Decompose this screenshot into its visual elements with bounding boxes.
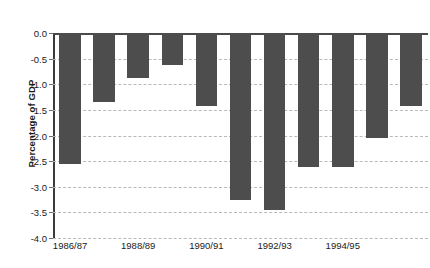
y-tick-label: -1.0 <box>31 79 47 90</box>
bar <box>366 33 387 138</box>
bar <box>230 33 251 200</box>
bar <box>59 33 80 164</box>
gridline <box>53 238 428 239</box>
plot-area: 0.0-0.5-1.0-1.5-2.0-2.5-3.0-3.5-4.0 <box>53 33 428 238</box>
bar <box>332 33 353 167</box>
x-tick-label: 1986/87 <box>53 240 87 251</box>
y-tick-label: -1.5 <box>31 104 47 115</box>
y-tick-mark <box>49 238 53 239</box>
bar <box>264 33 285 210</box>
bar-series <box>53 33 428 238</box>
y-tick-label: -2.0 <box>31 130 47 141</box>
bar <box>162 33 183 65</box>
y-tick-label: -2.5 <box>31 156 47 167</box>
x-tick-label: 1988/89 <box>121 240 155 251</box>
y-tick-label: -0.5 <box>31 53 47 64</box>
y-tick-label: -3.0 <box>31 181 47 192</box>
x-axis-labels: 1986/871988/891990/911992/931994/95 <box>53 240 428 262</box>
y-tick-label: -4.0 <box>31 233 47 244</box>
bar <box>196 33 217 106</box>
bar <box>127 33 148 78</box>
x-tick-label: 1994/95 <box>326 240 360 251</box>
y-tick-label: -3.5 <box>31 207 47 218</box>
bar <box>93 33 114 102</box>
x-tick-label: 1992/93 <box>257 240 291 251</box>
bar <box>298 33 319 167</box>
bar-chart: Percentage of GDP 0.0-0.5-1.0-1.5-2.0-2.… <box>0 0 430 268</box>
y-tick-label: 0.0 <box>34 28 47 39</box>
bar <box>400 33 421 106</box>
x-tick-label: 1990/91 <box>189 240 223 251</box>
